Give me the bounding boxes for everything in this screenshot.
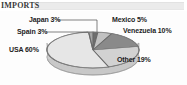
leader-line-japan <box>57 20 97 32</box>
slice-label-spain: Spain 3% <box>17 28 47 36</box>
slice-label-usa: USA 60% <box>9 46 39 54</box>
imports-pie-chart-figure: IMPORTS <box>0 0 187 85</box>
slice-label-mexico: Mexico 5% <box>112 16 147 24</box>
slice-label-venezuela: Venezuela 10% <box>123 27 172 35</box>
slice-label-other: Other 19% <box>117 56 151 64</box>
slice-label-japan: Japan 3% <box>29 16 61 24</box>
